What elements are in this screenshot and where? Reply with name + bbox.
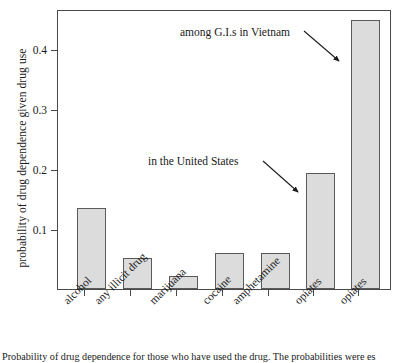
y-axis-title: probability of drug dependence given dru… bbox=[16, 28, 28, 288]
arrow-to-vietnam-bar bbox=[303, 30, 348, 68]
figure: probability of drug dependence given dru… bbox=[0, 0, 396, 363]
figure-caption: Probability of drug dependence for those… bbox=[2, 351, 396, 363]
bar-opiates-us bbox=[306, 173, 335, 289]
arrow-to-us-bar bbox=[262, 160, 307, 200]
x-tick-mark bbox=[130, 290, 131, 296]
annotation-vietnam: among G.I.s in Vietnam bbox=[180, 26, 290, 38]
x-tick-mark bbox=[268, 290, 269, 296]
y-tick-label: 0.1 bbox=[0, 222, 47, 239]
y-tick-label: 0.2 bbox=[0, 162, 47, 179]
y-tick-label: 0.4 bbox=[0, 42, 47, 59]
y-tick-label: 0.3 bbox=[0, 102, 47, 119]
annotation-united-states: in the United States bbox=[148, 155, 238, 167]
bar-opiates-vietnam bbox=[351, 20, 380, 289]
x-tick-mark bbox=[176, 290, 177, 296]
